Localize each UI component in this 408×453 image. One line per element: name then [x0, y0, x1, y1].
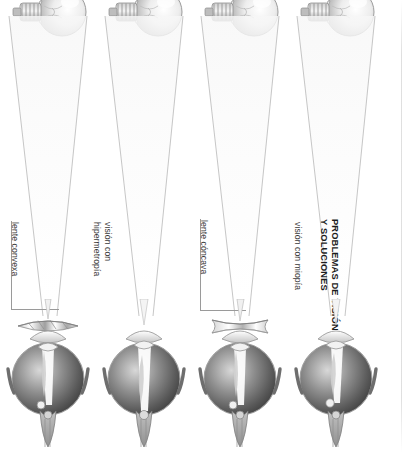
eyeball-anatomy-icon	[96, 299, 192, 449]
panel-vision-miopia: visión con miopía PROBLEMAS DE VISIÓN Y …	[288, 0, 384, 453]
page-edge-rule	[401, 0, 402, 453]
light-ray-cone-icon	[99, 16, 189, 346]
label-lente-convexa: lente convexa	[9, 222, 20, 276]
panel-vision-hipermetropia: visión con hipermetropía	[96, 0, 192, 453]
eyeball-anatomy-icon	[0, 299, 96, 449]
eyeball-anatomy-icon	[288, 299, 384, 449]
panel-lente-convexa: lente convexa	[0, 0, 96, 453]
label-lente-concava: lente cóncava	[198, 220, 209, 274]
light-bulb-icon	[96, 0, 192, 46]
light-ray-cone-icon	[195, 16, 285, 346]
light-bulb-icon	[288, 0, 384, 46]
vision-problems-page: lente convexa	[0, 0, 408, 453]
label-vision-hipermetropia: visión con hipermetropía	[91, 222, 113, 276]
panel-lente-concava: lente cóncava	[192, 0, 288, 453]
light-ray-cone-icon	[3, 16, 93, 346]
light-bulb-icon	[192, 0, 288, 46]
eyeball-anatomy-icon	[192, 299, 288, 449]
light-bulb-icon	[0, 0, 96, 46]
label-vision-miopia: visión con miopía	[292, 222, 303, 290]
